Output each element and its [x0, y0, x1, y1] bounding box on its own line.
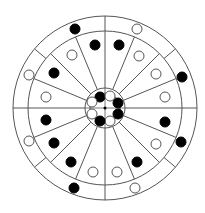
outer-divider-line: [164, 157, 175, 167]
filled-middle-dot: [66, 157, 76, 167]
filled-hub-dot: [95, 116, 105, 126]
empty-outer-dot: [132, 24, 142, 34]
empty-middle-dot: [112, 167, 122, 177]
radial-spokes: [28, 31, 182, 185]
filled-outer-dot: [177, 72, 187, 82]
filled-middle-dot: [132, 157, 142, 167]
filled-middle-dot: [90, 40, 100, 50]
filled-middle-dot: [49, 68, 59, 78]
empty-middle-dot: [151, 139, 161, 149]
empty-hub-dot: [87, 97, 97, 107]
empty-hub-dot: [105, 91, 115, 101]
filled-outer-dot: [70, 24, 80, 34]
empty-middle-dot: [134, 51, 144, 61]
outer-divider-line: [35, 49, 46, 59]
empty-outer-dot: [130, 183, 140, 193]
empty-middle-dot: [151, 69, 161, 79]
center-point: [104, 107, 107, 110]
empty-middle-dot: [160, 92, 170, 102]
empty-outer-dot: [24, 70, 34, 80]
filled-hub-dot: [113, 109, 123, 119]
empty-middle-dot: [88, 167, 98, 177]
filled-outer-dot: [69, 183, 79, 193]
filled-middle-dot: [114, 40, 124, 50]
outer-divider-line: [35, 157, 46, 167]
circular-dot-diagram: [0, 0, 205, 213]
empty-outer-dot: [24, 136, 34, 146]
empty-hub-dot: [87, 109, 97, 119]
filled-middle-dot: [160, 117, 170, 127]
filled-middle-dot: [41, 115, 51, 125]
filled-outer-dot: [176, 137, 186, 147]
filled-hub-dot: [113, 98, 123, 108]
filled-middle-dot: [49, 138, 59, 148]
empty-middle-dot: [67, 50, 77, 60]
empty-hub-dot: [105, 116, 115, 126]
empty-middle-dot: [41, 92, 51, 102]
outer-divider-line: [164, 49, 175, 59]
